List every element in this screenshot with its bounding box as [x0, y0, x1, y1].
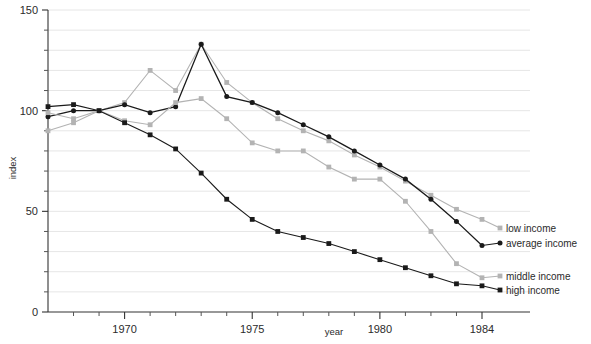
data-point — [250, 217, 255, 222]
data-point — [224, 197, 229, 202]
data-point — [326, 241, 331, 246]
data-point — [173, 147, 178, 152]
y-tick-label: 50 — [26, 205, 38, 217]
data-point — [148, 132, 153, 137]
legend-label: low income — [506, 223, 556, 234]
axes — [48, 10, 530, 312]
legend-leader-line — [482, 286, 500, 290]
y-tick-label: 150 — [20, 4, 38, 16]
x-tick-label: 1975 — [240, 323, 264, 335]
data-point — [46, 104, 51, 109]
data-point — [224, 116, 229, 121]
data-point — [122, 120, 127, 125]
legend-leader-line — [482, 243, 500, 246]
data-point — [199, 96, 204, 101]
data-point — [454, 207, 459, 212]
data-point — [403, 265, 408, 270]
legend-marker — [498, 288, 503, 293]
data-point — [46, 110, 51, 115]
data-point — [403, 199, 408, 204]
legend-leader-line — [482, 276, 500, 278]
data-point — [352, 148, 357, 153]
legend-label: high income — [506, 285, 560, 296]
data-point — [250, 140, 255, 145]
data-point — [173, 100, 178, 105]
data-point — [480, 217, 485, 222]
data-point — [377, 163, 382, 168]
data-point — [71, 108, 76, 113]
legend-label: average income — [506, 238, 578, 249]
data-point — [275, 110, 280, 115]
data-point — [71, 116, 76, 121]
data-point — [429, 229, 434, 234]
data-point — [326, 134, 331, 139]
legend-label: middle income — [506, 271, 571, 282]
data-point — [71, 102, 76, 107]
data-point — [250, 100, 255, 105]
legend-item-average-income: average income — [482, 238, 578, 249]
data-point — [275, 116, 280, 121]
y-tick-label: 0 — [32, 306, 38, 318]
legend-item-middle-income: middle income — [482, 271, 571, 282]
y-tick-label: 100 — [20, 105, 38, 117]
series-low-income — [46, 42, 485, 222]
x-tick-label: 1984 — [470, 323, 494, 335]
series-high-income — [46, 102, 485, 288]
data-point — [301, 235, 306, 240]
legend-marker — [498, 226, 503, 231]
data-point — [301, 149, 306, 154]
axis-tick-labels: 0501001501970197519801984 — [20, 4, 495, 335]
x-axis-label: year — [325, 326, 343, 337]
series-line — [48, 105, 482, 286]
data-point — [275, 149, 280, 154]
legend-leader-line — [482, 219, 500, 228]
data-point — [224, 94, 229, 99]
data-point — [326, 165, 331, 170]
data-point — [428, 197, 433, 202]
line-chart: 0501001501970197519801984 low incomeaver… — [0, 0, 591, 344]
data-point — [148, 122, 153, 127]
legend-item-high-income: high income — [482, 285, 560, 296]
data-point — [377, 257, 382, 262]
y-axis-label: index — [7, 156, 18, 179]
data-point — [301, 128, 306, 133]
data-point — [454, 219, 459, 224]
data-point — [173, 88, 178, 93]
data-point — [97, 108, 102, 113]
data-point — [429, 273, 434, 278]
legend-marker — [498, 241, 503, 246]
data-point — [199, 171, 204, 176]
data-point — [301, 122, 306, 127]
data-point — [46, 128, 51, 133]
data-point — [122, 102, 127, 107]
data-point — [454, 281, 459, 286]
x-tick-label: 1970 — [112, 323, 136, 335]
data-point — [199, 42, 204, 47]
data-point — [403, 177, 408, 182]
chart-legend: low incomeaverage incomemiddle incomehig… — [482, 219, 578, 295]
data-point — [148, 110, 153, 115]
data-point — [454, 261, 459, 266]
chart-canvas: 0501001501970197519801984 low incomeaver… — [0, 0, 591, 344]
data-point — [377, 177, 382, 182]
data-point — [148, 68, 153, 73]
x-tick-label: 1980 — [368, 323, 392, 335]
data-point — [352, 177, 357, 182]
axis-ticks — [42, 10, 482, 319]
data-point — [275, 229, 280, 234]
legend-marker — [498, 274, 503, 279]
data-point — [224, 80, 229, 85]
data-point — [352, 249, 357, 254]
